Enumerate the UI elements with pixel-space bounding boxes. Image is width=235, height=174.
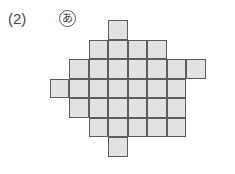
grid-cell [50, 79, 70, 99]
grid-cell [89, 98, 109, 118]
grid-cell [108, 137, 128, 157]
grid-cell [147, 98, 167, 118]
grid-cell [147, 40, 167, 60]
grid-cell [69, 59, 89, 79]
grid-cell [128, 59, 148, 79]
grid-cell [167, 98, 187, 118]
grid-cell [89, 79, 109, 99]
grid-cell [89, 40, 109, 60]
grid-cell [167, 79, 187, 99]
grid-cell [147, 79, 167, 99]
grid-cell [147, 59, 167, 79]
grid-cell [128, 40, 148, 60]
grid-cell [147, 118, 167, 138]
grid-cell [128, 79, 148, 99]
grid-cell [89, 118, 109, 138]
grid-cell [128, 118, 148, 138]
figure-root: (2) あ [0, 0, 235, 174]
grid-cell [108, 59, 128, 79]
polyomino-grid [0, 0, 235, 174]
grid-cell [108, 98, 128, 118]
grid-cell [128, 98, 148, 118]
grid-cell [167, 118, 187, 138]
grid-cell [108, 118, 128, 138]
grid-cell [108, 79, 128, 99]
grid-cell [69, 98, 89, 118]
grid-cell [108, 20, 128, 40]
grid-cell [69, 79, 89, 99]
grid-cell [167, 59, 187, 79]
grid-cell [108, 40, 128, 60]
grid-cell [89, 59, 109, 79]
grid-cell [186, 59, 206, 79]
